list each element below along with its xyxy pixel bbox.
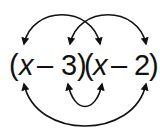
minus-1: – [37,49,54,81]
term-2: 2 [134,49,150,81]
arrow-inner-terms [68,84,102,107]
term-x-1: x [17,49,35,81]
minus-2: – [111,49,128,81]
term-x-2: x [91,49,109,81]
paren-close-2: ) [149,49,159,81]
foil-diagram: ( x – 3 ) ( x – 2 ) [0,0,160,134]
term-3: 3 [61,49,77,81]
arrow-outer-terms [24,84,146,126]
expression: ( x – 3 ) ( x – 2 ) [9,49,159,81]
paren-open-1: ( [9,49,19,81]
